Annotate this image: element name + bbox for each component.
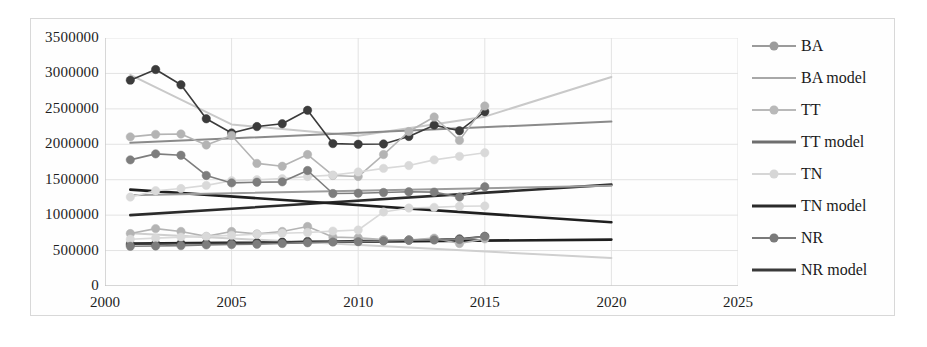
y-axis-tick-label: 500000	[0, 242, 107, 259]
data-point	[202, 141, 210, 149]
data-point	[278, 229, 286, 237]
legend-line-swatch	[752, 141, 796, 144]
data-point	[430, 156, 438, 164]
legend-line-swatch	[752, 205, 796, 208]
data-point	[151, 187, 159, 195]
data-point	[329, 171, 337, 179]
data-point	[379, 237, 387, 245]
trend-line	[130, 122, 611, 143]
data-point	[329, 227, 337, 235]
legend-item-nr[interactable]: NR	[752, 228, 823, 248]
legend-key-icon	[752, 199, 796, 213]
legend-item-ba-model[interactable]: BA model	[752, 68, 866, 88]
data-point	[430, 113, 438, 121]
legend-item-label: TT	[801, 102, 821, 118]
data-point	[278, 120, 286, 128]
data-point	[354, 189, 362, 197]
chart-legend: BABA modelTTTT modelTNTN modelNRNR model	[752, 36, 892, 298]
data-point	[202, 115, 210, 123]
x-axis-tick-label: 2000	[90, 294, 120, 311]
data-point	[126, 156, 134, 164]
data-point	[303, 106, 311, 114]
legend-item-nr-model[interactable]: NR model	[752, 260, 867, 280]
plot-svg	[105, 38, 738, 286]
data-point	[455, 235, 463, 243]
data-point	[430, 236, 438, 244]
data-point	[126, 242, 134, 250]
y-axis-tick-label: 1500000	[0, 171, 107, 188]
y-axis-tick-label: 2000000	[0, 135, 107, 152]
data-point	[278, 239, 286, 247]
legend-item-tn-model[interactable]: TN model	[752, 196, 866, 216]
data-point	[151, 150, 159, 158]
data-point	[430, 203, 438, 211]
legend-key-icon	[752, 103, 796, 117]
x-axis-tick-label: 2010	[343, 294, 373, 311]
data-point	[379, 208, 387, 216]
data-point	[177, 151, 185, 159]
data-point	[379, 164, 387, 172]
data-point	[253, 230, 261, 238]
legend-marker-dot	[770, 106, 779, 115]
data-point	[455, 202, 463, 210]
data-point	[354, 168, 362, 176]
data-point	[379, 150, 387, 158]
legend-key-icon	[752, 263, 796, 277]
x-axis-tick-labels: 200020052010201520202025	[105, 292, 738, 316]
series-trend	[130, 185, 611, 215]
data-point	[303, 228, 311, 236]
data-point	[151, 242, 159, 250]
data-point	[227, 240, 235, 248]
data-point	[481, 149, 489, 157]
data-point	[151, 224, 159, 232]
chart-container: 0500000100000015000002000000250000030000…	[0, 0, 927, 347]
legend-key-icon	[752, 39, 796, 53]
legend-item-label: TT model	[801, 134, 864, 150]
data-point	[253, 122, 261, 130]
legend-item-tn[interactable]: TN	[752, 164, 822, 184]
y-axis-tick-label: 1000000	[0, 206, 107, 223]
trend-line	[130, 75, 611, 136]
legend-item-label: TN model	[801, 198, 866, 214]
x-axis-tick-label: 2015	[470, 294, 500, 311]
x-axis-tick-label: 2025	[723, 294, 753, 311]
data-point	[481, 232, 489, 240]
data-point	[126, 193, 134, 201]
y-axis-tick-labels: 0500000100000015000002000000250000030000…	[0, 38, 99, 286]
legend-line-swatch	[752, 77, 796, 79]
data-point	[227, 131, 235, 139]
data-point	[202, 232, 210, 240]
legend-marker-dot	[770, 42, 779, 51]
legend-item-label: TN	[801, 166, 822, 182]
plot-area	[105, 38, 738, 286]
data-point	[329, 238, 337, 246]
y-axis-tick-label: 3000000	[0, 64, 107, 81]
data-point	[202, 171, 210, 179]
legend-item-tt[interactable]: TT	[752, 100, 821, 120]
legend-marker-dot	[770, 234, 779, 243]
data-point	[481, 183, 489, 191]
legend-item-label: NR model	[801, 262, 867, 278]
legend-key-icon	[752, 167, 796, 181]
data-point	[329, 139, 337, 147]
data-point	[151, 65, 159, 73]
legend-key-icon	[752, 231, 796, 245]
legend-item-tt-model[interactable]: TT model	[752, 132, 864, 152]
data-point	[455, 152, 463, 160]
legend-marker-dot	[770, 170, 779, 179]
data-point	[405, 236, 413, 244]
data-point	[278, 178, 286, 186]
data-point	[303, 150, 311, 158]
data-point	[177, 233, 185, 241]
series-trend	[130, 75, 611, 136]
data-point	[405, 204, 413, 212]
legend-item-ba[interactable]: BA	[752, 36, 823, 56]
data-point	[278, 162, 286, 170]
legend-item-label: BA model	[801, 70, 866, 86]
data-point	[227, 231, 235, 239]
data-point	[455, 136, 463, 144]
data-point	[253, 240, 261, 248]
data-point	[227, 179, 235, 187]
legend-line-swatch	[752, 269, 796, 272]
data-point	[405, 188, 413, 196]
